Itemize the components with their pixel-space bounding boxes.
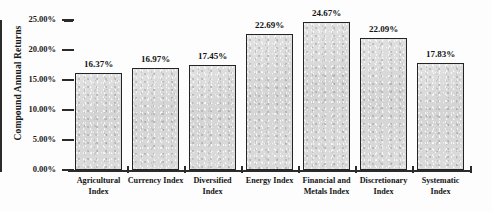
x-tick-3: [241, 166, 243, 173]
bar-agricultural-index: [75, 73, 122, 170]
y-tick-label-10: 10.00%: [10, 104, 56, 114]
bar-systematic-index: [417, 63, 464, 170]
bar-value-diversified-index: 17.45%: [187, 51, 238, 61]
y-tick-10: [62, 109, 74, 111]
y-tick-15: [62, 79, 74, 81]
y-tick-25: [62, 19, 74, 21]
y-tick-label-20: 20.00%: [10, 44, 56, 54]
bar-value-discretionary-index: 22.09%: [358, 24, 409, 34]
y-tick-label-15-wrap: 15.00%: [10, 74, 56, 84]
x-category-label-currency-index: Currency Index: [126, 176, 185, 187]
x-category-label-agricultural-index: Agricultural Index: [69, 176, 128, 197]
x-tick-5: [355, 166, 357, 173]
x-category-label-line1: Agricultural: [69, 176, 128, 187]
bar-energy-index: [246, 34, 293, 170]
y-tick-label-25-wrap: 25.00%: [10, 14, 56, 24]
y-tick-label-5: 5.00%: [10, 134, 56, 144]
x-category-label-line1: Currency Index: [126, 176, 185, 187]
x-category-label-line2: Index: [69, 187, 128, 198]
y-tick-label-0: 0.00%: [10, 164, 56, 174]
x-tick-4: [298, 166, 300, 173]
x-category-label-line2: Index: [354, 187, 413, 198]
x-category-label-line2: Index: [183, 187, 242, 198]
y-tick-20: [62, 49, 74, 51]
bar-value-agricultural-index: 16.37%: [73, 59, 124, 69]
y-tick-0: [62, 169, 74, 171]
x-category-label-diversified-index: Diversified Index: [183, 176, 242, 197]
x-category-label-line1: Energy Index: [240, 176, 299, 187]
x-category-label-line1: Discretionary: [354, 176, 413, 187]
y-tick-label-15: 15.00%: [10, 74, 56, 84]
bar-value-financial-and-metals-index: 24.67%: [301, 8, 352, 18]
bar-chart: Compound Annual Returns 25.00% 20.00% 15…: [0, 0, 492, 212]
y-tick-label-5-wrap: 5.00%: [10, 134, 56, 144]
y-tick-label-0-wrap: 0.00%: [10, 164, 56, 174]
x-category-label-financial-and-metals-index: Financial and Metals Index: [297, 176, 356, 197]
bar-value-systematic-index: 17.83%: [415, 49, 466, 59]
x-axis-end-tick: [470, 166, 472, 173]
y-tick-label-20-wrap: 20.00%: [10, 44, 56, 54]
x-category-label-systematic-index: Systematic Index: [411, 176, 470, 197]
x-category-label-discretionary-index: Discretionary Index: [354, 176, 413, 197]
y-tick-5: [62, 139, 74, 141]
bar-financial-and-metals-index: [303, 22, 350, 170]
x-tick-6: [412, 166, 414, 173]
y-tick-label-25: 25.00%: [10, 14, 56, 24]
bar-discretionary-index: [360, 38, 407, 171]
x-tick-2: [184, 166, 186, 173]
x-category-label-line1: Diversified: [183, 176, 242, 187]
x-category-label-line1: Systematic: [411, 176, 470, 187]
x-category-label-line1: Financial and: [297, 176, 356, 187]
bar-currency-index: [132, 68, 179, 170]
x-category-label-energy-index: Energy Index: [240, 176, 299, 187]
y-axis-line: [0, 20, 2, 172]
y-tick-label-10-wrap: 10.00%: [10, 104, 56, 114]
x-category-label-line2: Index: [411, 187, 470, 198]
bar-value-energy-index: 22.69%: [244, 20, 295, 30]
x-category-label-line2: Metals Index: [297, 187, 356, 198]
x-tick-1: [127, 166, 129, 173]
bar-diversified-index: [189, 65, 236, 170]
bar-value-currency-index: 16.97%: [130, 54, 181, 64]
